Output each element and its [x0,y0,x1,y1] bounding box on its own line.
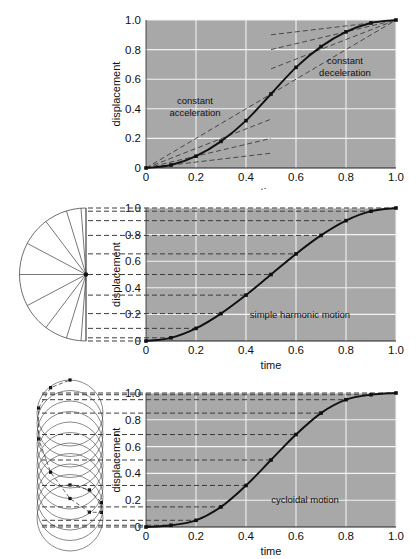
annotation-line: constant [327,55,363,66]
y-tick-label: 0.4 [125,282,142,294]
construction-circle [37,433,103,499]
y-tick-label: 0.6 [125,441,141,453]
in-plot-label: cycloidal motion [271,494,339,505]
radial-spoke [46,275,86,328]
x-tick-label: 1.0 [388,171,404,183]
x-tick-label: 1.0 [388,344,404,356]
y-axis-ticks: 00.20.40.60.81.0 [125,14,142,174]
semicircle-center [84,272,88,276]
data-point-marker [344,219,348,223]
data-point-marker [294,66,298,70]
figure-cycloidal-motion: 00.20.40.60.81.000.20.40.60.81.0timedisp… [0,372,420,559]
data-point-marker [194,154,198,158]
in-plot-label: simple harmonic motion [250,309,350,320]
x-tick-label: 0.4 [238,344,255,356]
y-tick-label: 0.8 [125,44,141,56]
y-tick-label: 0.2 [125,132,141,144]
construction-circle [37,412,103,478]
annotation-line: deceleration [319,67,371,78]
data-point-marker [369,393,373,397]
cycloid-point [68,378,71,381]
data-point-marker [269,92,273,96]
annotation-line: constant [177,95,213,106]
data-point-marker [319,45,323,49]
data-point-marker [194,519,198,523]
x-tick-label: 0.8 [338,344,354,356]
data-point-marker [144,525,148,529]
data-point-marker [294,252,298,256]
x-axis-ticks: 00.20.40.60.81.0 [143,344,404,356]
data-point-marker [394,18,398,22]
x-tick-label: 0 [143,344,149,356]
x-tick-label: 0.4 [238,171,255,183]
data-point-marker [144,339,148,343]
data-point-marker [344,398,348,402]
data-point-marker [244,484,248,488]
constant-acceleration-label: constantacceleration [169,95,220,118]
y-tick-label: 0.8 [125,229,141,241]
data-point-marker [344,30,348,34]
construction-circle [37,401,103,467]
y-tick-label: 1.0 [125,14,141,26]
data-point-marker [169,336,173,340]
x-tick-label: 0.2 [188,530,204,542]
x-axis-title: time [261,359,282,371]
data-point-marker [219,312,223,316]
x-tick-label: 0.4 [238,530,255,542]
data-point-marker [244,119,248,123]
data-point-marker [369,21,373,25]
radial-spoke [81,208,86,274]
data-point-marker [319,234,323,238]
chart-constant-acceleration: 00.20.40.60.81.000.20.40.60.81.0timedisp… [0,0,420,190]
radial-spoke [66,275,86,339]
data-point-marker [169,163,173,167]
data-point-marker [194,327,198,331]
chart-cycloidal-motion: 00.20.40.60.81.000.20.40.60.81.0timedisp… [0,372,420,559]
y-axis-title: displacement [110,62,122,127]
x-axis-title: time [261,545,282,557]
data-point-marker [369,209,373,213]
y-tick-label: 0.6 [125,73,141,85]
data-point-marker [219,505,223,509]
data-point-marker [269,273,273,277]
annotation-line: acceleration [169,107,220,118]
data-point-marker [219,140,223,144]
x-tick-label: 0 [143,171,149,183]
x-tick-label: 0.6 [288,530,304,542]
x-axis-ticks: 00.20.40.60.81.0 [143,530,404,542]
data-point-marker [269,458,273,462]
x-tick-label: 0.6 [288,171,304,183]
construction-circle [37,391,103,457]
x-axis-ticks: 00.20.40.60.81.0 [143,171,404,183]
x-tick-label: 0.8 [338,171,354,183]
construction-circle [37,422,103,488]
data-point-marker [319,411,323,415]
x-tick-label: 0.2 [188,344,204,356]
x-tick-label: 0.2 [188,171,204,183]
x-tick-label: 0.6 [288,344,304,356]
radial-spoke [27,275,86,306]
data-point-marker [394,206,398,210]
data-point-marker [169,523,173,527]
figure-constant-acceleration: 00.20.40.60.81.000.20.40.60.81.0timedisp… [0,0,420,190]
radial-spoke [27,243,86,274]
data-point-marker [394,391,398,395]
y-tick-label: 0.2 [125,494,141,506]
figure-simple-harmonic-motion: 00.20.40.60.81.000.20.40.60.81.0timedisp… [0,190,420,372]
y-tick-label: 0.6 [125,255,141,267]
y-tick-label: 0.4 [125,467,142,479]
y-tick-label: 0.4 [125,103,142,115]
radial-spoke [66,211,86,275]
y-tick-label: 0 [135,162,141,174]
chart-simple-harmonic-motion: 00.20.40.60.81.000.20.40.60.81.0timedisp… [0,190,420,372]
x-tick-label: 0.8 [338,530,354,542]
y-tick-label: 0.8 [125,414,141,426]
radial-spoke [81,275,86,341]
semicircle-construction [20,208,89,341]
data-point-marker [244,293,248,297]
x-tick-label: 0 [143,530,149,542]
x-tick-label: 1.0 [388,530,404,542]
data-point-marker [144,166,148,170]
y-tick-label: 0.2 [125,308,141,320]
data-point-marker [294,433,298,437]
